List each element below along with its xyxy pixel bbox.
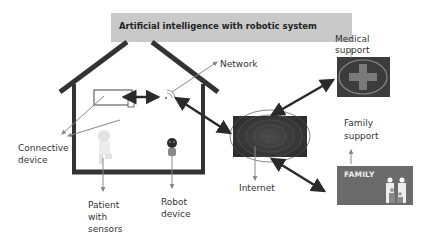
internet-family-link [272,159,324,191]
connective-device-label: Connective device [18,142,69,166]
robot-label: Robot device [161,196,191,220]
medical-support-label: Medical support [335,34,370,56]
robot-icon [167,138,177,156]
medical-cross-icon [337,57,390,97]
family-badge-text: FAMILY [344,170,375,179]
connective-device-icon [94,90,134,107]
network-label: Network [220,58,258,70]
family-support-label: Family support [344,117,379,143]
house-icon [60,42,218,174]
internet-medical-link [272,80,333,115]
patient-label: Patient with sensors [88,199,123,235]
patient-icon [98,130,112,164]
internet-label: Internet [239,182,275,194]
internet-icon [230,110,310,162]
